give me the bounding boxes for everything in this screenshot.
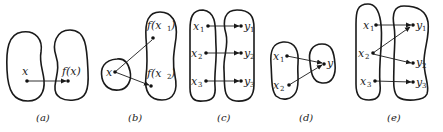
label-y1: y1 bbox=[415, 19, 426, 33]
svg-text:x: x bbox=[191, 47, 198, 60]
svg-text:2: 2 bbox=[422, 62, 426, 70]
svg-text:2: 2 bbox=[198, 53, 202, 61]
point-y3 bbox=[239, 79, 243, 83]
label-fx: f(x) bbox=[61, 65, 81, 78]
label-x2: x2 bbox=[191, 47, 202, 61]
caption-e: (e) bbox=[387, 112, 401, 123]
svg-text:3: 3 bbox=[367, 81, 371, 89]
svg-text:x: x bbox=[193, 20, 200, 33]
point-y2 bbox=[411, 61, 415, 65]
svg-text:1: 1 bbox=[200, 26, 204, 34]
mapping-arrow bbox=[115, 72, 149, 85]
caption-d: (d) bbox=[299, 112, 313, 123]
svg-text:x: x bbox=[273, 79, 280, 92]
point-y bbox=[322, 62, 326, 66]
mapping-arrow bbox=[287, 56, 322, 63]
svg-text:): ) bbox=[170, 67, 175, 80]
point-x bbox=[25, 79, 29, 83]
panel-b: x f(x 1 ) f(x 2 ) (b) bbox=[102, 12, 177, 123]
svg-text:2: 2 bbox=[280, 85, 284, 93]
svg-text:f(x: f(x bbox=[146, 67, 162, 80]
label-x: x bbox=[106, 66, 113, 79]
panel-d: x1 x2 y (d) bbox=[271, 42, 335, 123]
svg-text:1: 1 bbox=[370, 25, 374, 33]
panel-e: x1 x2 x3 y1 y2 y3 (e) bbox=[356, 4, 428, 123]
panel-c: x1 x2 x3 y1 y2 y3 (c) bbox=[190, 10, 254, 123]
point-x bbox=[113, 70, 117, 74]
svg-text:f(x: f(x bbox=[146, 19, 162, 32]
point-y3 bbox=[411, 80, 415, 84]
svg-text:3: 3 bbox=[198, 81, 202, 89]
point-fx bbox=[66, 79, 70, 83]
label-x1: x1 bbox=[273, 50, 284, 64]
svg-text:x: x bbox=[360, 75, 367, 88]
point-y1 bbox=[411, 23, 415, 27]
point-fx1 bbox=[151, 36, 155, 40]
point-x1 bbox=[374, 23, 378, 27]
label-x3: x3 bbox=[191, 75, 202, 89]
svg-text:1: 1 bbox=[422, 25, 426, 33]
point-x2 bbox=[204, 51, 208, 55]
point-y1 bbox=[239, 24, 243, 28]
label-x2: x2 bbox=[273, 79, 284, 93]
label-x3: x3 bbox=[360, 75, 371, 89]
label-y3: y3 bbox=[415, 76, 426, 90]
function-mapping-diagram: x f(x) (a) x f(x 1 ) f(x 2 ) (b) bbox=[0, 0, 443, 132]
svg-text:x: x bbox=[273, 50, 280, 63]
point-x1 bbox=[206, 24, 210, 28]
mapping-arrow bbox=[373, 54, 411, 63]
point-x2 bbox=[371, 51, 375, 55]
label-y: y bbox=[326, 57, 334, 70]
svg-text:x: x bbox=[363, 19, 370, 32]
point-x2 bbox=[287, 83, 291, 87]
label-fx1: f(x 1 ) bbox=[146, 19, 175, 33]
label-x2: x2 bbox=[358, 47, 369, 61]
point-fx2 bbox=[149, 84, 153, 88]
svg-text:1: 1 bbox=[250, 26, 254, 34]
svg-text:2: 2 bbox=[365, 53, 369, 61]
mapping-arrow bbox=[373, 27, 410, 53]
point-y2 bbox=[239, 51, 243, 55]
point-x3 bbox=[373, 79, 377, 83]
svg-text:x: x bbox=[191, 75, 198, 88]
svg-text:): ) bbox=[170, 19, 175, 32]
caption-b: (b) bbox=[128, 112, 142, 123]
label-y3: y3 bbox=[243, 75, 254, 89]
caption-c: (c) bbox=[217, 112, 231, 123]
caption-a: (a) bbox=[36, 112, 50, 123]
point-x1 bbox=[285, 54, 289, 58]
svg-text:x: x bbox=[358, 47, 365, 60]
label-x1: x1 bbox=[193, 20, 204, 34]
point-x3 bbox=[204, 79, 208, 83]
label-x1: x1 bbox=[363, 19, 374, 33]
label-fx2: f(x 2 ) bbox=[146, 67, 175, 81]
svg-text:2: 2 bbox=[250, 53, 254, 61]
svg-text:1: 1 bbox=[280, 56, 284, 64]
svg-text:3: 3 bbox=[422, 82, 426, 90]
svg-text:3: 3 bbox=[250, 81, 254, 89]
label-y2: y2 bbox=[243, 47, 254, 61]
panel-a: x f(x) (a) bbox=[7, 30, 88, 123]
label-x: x bbox=[22, 65, 29, 78]
